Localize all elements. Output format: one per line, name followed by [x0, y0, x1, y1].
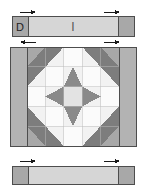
bottom-strip-end-square-left [12, 166, 28, 184]
block-right-sashing [119, 47, 136, 146]
patch-r1c3 [64, 47, 82, 67]
patch-r4c2 [45, 106, 63, 126]
patch-r2c2 [45, 67, 63, 87]
patch-r5c3 [64, 126, 82, 146]
patch-r2c4 [82, 67, 100, 87]
strip-center-label: I [71, 20, 74, 34]
strip-left-label: D [16, 21, 24, 33]
block-left-sashing [10, 47, 27, 146]
bottom-strip-end-square-right [118, 166, 134, 184]
patch-r3c1 [27, 87, 45, 107]
center-quilt-block[interactable] [10, 47, 136, 146]
quilt-block-assembly-diagram: I D [0, 0, 146, 191]
block-patch-grid [27, 47, 119, 146]
top-strip-end-square-right [118, 16, 134, 36]
patch-r3c5 [101, 87, 119, 107]
top-sashing-strip[interactable]: I D [12, 16, 134, 36]
patch-r3c3-center-square [64, 87, 82, 107]
patch-r4c4 [82, 106, 100, 126]
bottom-sashing-strip[interactable] [12, 166, 134, 184]
bottom-strip-body [28, 166, 118, 184]
